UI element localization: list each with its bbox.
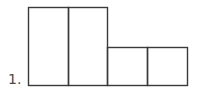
tall-rectangle-2	[69, 8, 108, 86]
tall-rectangle-1	[29, 8, 69, 86]
short-square-1	[108, 48, 148, 86]
rectangle-composite-figure	[0, 0, 200, 99]
short-square-2	[148, 48, 188, 86]
